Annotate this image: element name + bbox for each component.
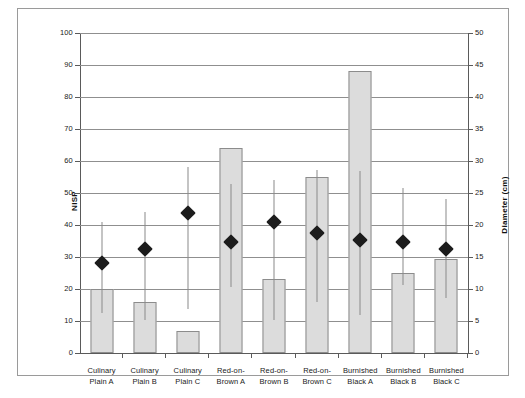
x-axis-category-label-line: Black C <box>419 376 473 387</box>
category-group <box>382 33 425 353</box>
category-group <box>80 33 123 353</box>
y-axis-left-tick-label: 30 <box>43 252 73 261</box>
category-group <box>123 33 166 353</box>
category-group <box>209 33 252 353</box>
x-axis-tick <box>165 353 166 358</box>
bar[interactable] <box>176 331 199 353</box>
y-axis-left-tick-label: 10 <box>43 316 73 325</box>
plot-area: 0102030405060708090100 05101520253035404… <box>80 33 468 353</box>
y-axis-right-tick <box>468 225 473 226</box>
y-axis-left-tick-label: 50 <box>43 188 73 197</box>
y-axis-left-tick-label: 100 <box>43 28 73 37</box>
y-axis-right-tick <box>468 257 473 258</box>
x-axis-tick <box>251 353 252 358</box>
category-group <box>296 33 339 353</box>
y-axis-right-tick <box>468 353 473 354</box>
y-axis-right-tick-label: 0 <box>475 348 505 357</box>
category-group <box>252 33 295 353</box>
y-axis-right-tick-label: 35 <box>475 124 505 133</box>
gridline <box>80 353 468 354</box>
category-group <box>425 33 468 353</box>
data-point-marker[interactable] <box>396 234 412 250</box>
x-axis-tick <box>208 353 209 358</box>
y-axis-right-tick-label: 40 <box>475 92 505 101</box>
category-group <box>339 33 382 353</box>
y-axis-right-tick <box>468 129 473 130</box>
y-axis-right-tick-label: 50 <box>475 28 505 37</box>
y-axis-left-title: NISP <box>70 191 79 211</box>
range-whisker <box>187 167 188 309</box>
data-point-marker[interactable] <box>94 256 110 272</box>
y-axis-right-tick-label: 5 <box>475 316 505 325</box>
y-axis-left-tick-label: 20 <box>43 284 73 293</box>
x-axis-category-label: BurnishedBlack C <box>419 365 473 387</box>
x-axis-tick <box>381 353 382 358</box>
y-axis-right-tick-label: 30 <box>475 156 505 165</box>
y-axis-left-tick-label: 0 <box>43 348 73 357</box>
y-axis-right-tick <box>468 289 473 290</box>
y-axis-right-tick <box>468 193 473 194</box>
y-axis-left-tick-label: 90 <box>43 60 73 69</box>
y-axis-left-tick-label: 60 <box>43 156 73 165</box>
y-axis-left-tick-label: 80 <box>43 92 73 101</box>
x-axis-tick <box>424 353 425 358</box>
y-axis-right-tick-label: 15 <box>475 252 505 261</box>
x-axis-tick <box>467 353 468 358</box>
x-axis-tick <box>338 353 339 358</box>
y-axis-right-tick <box>468 65 473 66</box>
range-whisker <box>144 212 145 320</box>
y-axis-right-tick <box>468 161 473 162</box>
y-axis-right-tick-label: 10 <box>475 284 505 293</box>
x-axis-category-label-line: Burnished <box>419 365 473 376</box>
y-axis-right-tick <box>468 97 473 98</box>
y-axis-right-tick-label: 45 <box>475 60 505 69</box>
x-axis-tick <box>295 353 296 358</box>
y-axis-left-tick <box>75 353 80 354</box>
data-point-marker[interactable] <box>266 215 282 231</box>
data-point-marker[interactable] <box>137 241 153 257</box>
y-axis-right-tick <box>468 321 473 322</box>
chart-frame: 0102030405060708090100 05101520253035404… <box>17 8 509 376</box>
range-whisker <box>273 180 274 320</box>
data-point-marker[interactable] <box>180 206 196 222</box>
y-axis-left-tick-label: 40 <box>43 220 73 229</box>
y-axis-right-title: Diameter (cm) <box>500 176 509 233</box>
x-axis-tick <box>122 353 123 358</box>
y-axis-right-tick <box>468 33 473 34</box>
category-group <box>166 33 209 353</box>
data-point-marker[interactable] <box>439 241 455 257</box>
y-axis-left-tick-label: 70 <box>43 124 73 133</box>
